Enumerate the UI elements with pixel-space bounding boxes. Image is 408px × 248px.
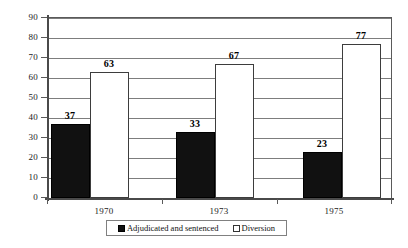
bar-label-1970-diversion: 63 bbox=[89, 59, 129, 69]
legend-label-diversion: Diversion bbox=[242, 224, 276, 233]
y-tick-60 bbox=[41, 77, 47, 78]
bar-label-1975-adjudicated: 23 bbox=[302, 139, 342, 149]
y-axis-label-50: 50 bbox=[8, 93, 38, 102]
y-tick-50 bbox=[41, 97, 47, 98]
y-tick-90 bbox=[41, 17, 47, 18]
x-tick-2 bbox=[277, 199, 278, 204]
y-tick-70 bbox=[41, 57, 47, 58]
x-axis-label-1973: 1973 bbox=[189, 206, 249, 216]
y-tick-20 bbox=[41, 157, 47, 158]
x-axis-label-1970: 1970 bbox=[74, 206, 134, 216]
y-tick-80 bbox=[41, 37, 47, 38]
legend-swatch-empty-square-icon bbox=[233, 225, 240, 232]
y-tick-0 bbox=[41, 197, 47, 198]
chart-legend: Adjudicated and sentenced Diversion bbox=[106, 220, 287, 236]
bar-label-1973-adjudicated: 33 bbox=[175, 119, 215, 129]
x-tick-start bbox=[47, 199, 48, 204]
y-axis-label-20: 20 bbox=[8, 153, 38, 162]
gridline-90 bbox=[48, 18, 391, 19]
y-axis-label-60: 60 bbox=[8, 73, 38, 82]
bar-1973-adjudicated bbox=[176, 132, 215, 198]
legend-item-diversion: Diversion bbox=[233, 224, 276, 233]
y-axis-label-80: 80 bbox=[8, 33, 38, 42]
legend-label-adjudicated: Adjudicated and sentenced bbox=[127, 224, 219, 233]
legend-item-adjudicated: Adjudicated and sentenced bbox=[118, 224, 219, 233]
bar-label-1975-diversion: 77 bbox=[341, 31, 381, 41]
bar-1970-diversion bbox=[90, 72, 129, 198]
y-axis-label-40: 40 bbox=[8, 113, 38, 122]
bar-chart: 37 63 33 67 23 77 90 80 70 60 50 40 30 2… bbox=[0, 0, 408, 248]
x-tick-end bbox=[391, 199, 392, 204]
x-axis-line bbox=[45, 198, 394, 200]
x-tick-1 bbox=[162, 199, 163, 204]
bar-label-1973-diversion: 67 bbox=[214, 51, 254, 61]
plot-area: 37 63 33 67 23 77 bbox=[47, 17, 392, 199]
y-axis-line bbox=[47, 15, 49, 201]
y-axis-label-0: 0 bbox=[8, 193, 38, 202]
y-tick-30 bbox=[41, 137, 47, 138]
gridline-80 bbox=[48, 38, 391, 39]
y-tick-10 bbox=[41, 177, 47, 178]
y-axis-label-90: 90 bbox=[8, 13, 38, 22]
y-tick-40 bbox=[41, 117, 47, 118]
bar-1970-adjudicated bbox=[51, 124, 90, 198]
bar-1975-adjudicated bbox=[303, 152, 342, 198]
legend-swatch-filled-square-icon bbox=[118, 225, 125, 232]
bar-1975-diversion bbox=[342, 44, 381, 198]
bar-label-1970-adjudicated: 37 bbox=[50, 111, 90, 121]
y-axis-label-70: 70 bbox=[8, 53, 38, 62]
y-axis-label-10: 10 bbox=[8, 173, 38, 182]
x-axis-label-1975: 1975 bbox=[304, 206, 364, 216]
y-axis-label-30: 30 bbox=[8, 133, 38, 142]
bar-1973-diversion bbox=[215, 64, 254, 198]
